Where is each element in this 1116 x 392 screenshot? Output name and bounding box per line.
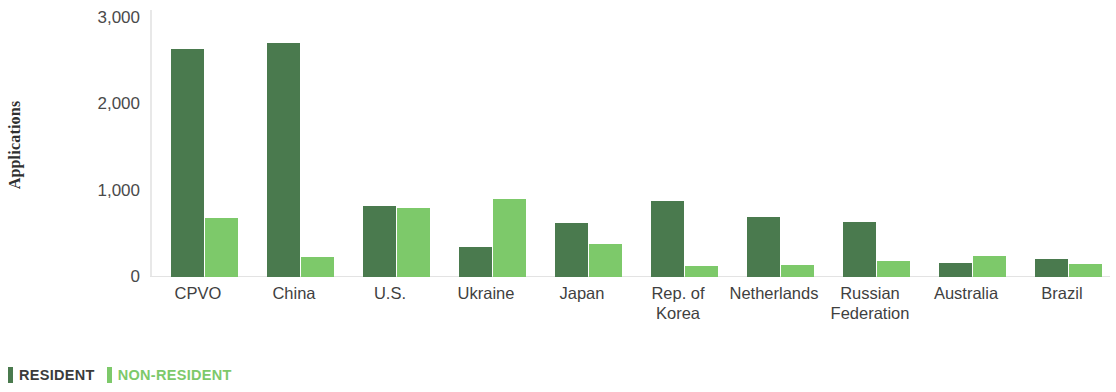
bar-resident[interactable] (843, 222, 876, 277)
x-axis-category-label-line: Brazil (1002, 283, 1116, 303)
legend-swatch-non-resident-icon (107, 367, 112, 383)
legend-label-non-resident: NON-RESIDENT (118, 367, 232, 383)
y-axis-title: Applications (0, 0, 30, 290)
bar-resident[interactable] (459, 247, 492, 277)
bar-non-resident[interactable] (397, 208, 430, 277)
y-axis-tick-label: 2,000 (54, 95, 140, 112)
bar-non-resident[interactable] (973, 256, 1006, 277)
bar-resident[interactable] (651, 201, 684, 277)
bar-group (555, 10, 622, 277)
bar-group (651, 10, 718, 277)
bar-non-resident[interactable] (685, 266, 718, 277)
bar-resident[interactable] (555, 223, 588, 277)
bar-resident[interactable] (1035, 259, 1068, 277)
y-axis-tick-label: 0 (54, 268, 140, 285)
y-axis-tick-label: 3,000 (54, 9, 140, 26)
bar-group (267, 10, 334, 277)
bar-non-resident[interactable] (877, 261, 910, 277)
bar-non-resident[interactable] (493, 199, 526, 277)
bar-resident[interactable] (747, 217, 780, 277)
legend-label-resident: RESIDENT (19, 367, 95, 383)
bar-group (171, 10, 238, 277)
bar-group (459, 10, 526, 277)
x-axis-category-label-line: Federation (810, 303, 930, 323)
bar-group (747, 10, 814, 277)
bar-resident[interactable] (171, 49, 204, 277)
bar-resident[interactable] (267, 43, 300, 277)
legend-item-resident[interactable]: RESIDENT (8, 367, 95, 383)
bar-non-resident[interactable] (301, 257, 334, 277)
bar-group (939, 10, 1006, 277)
bar-group (363, 10, 430, 277)
bar-resident[interactable] (363, 206, 396, 277)
legend-item-non-resident[interactable]: NON-RESIDENT (107, 367, 232, 383)
y-axis-line (150, 10, 152, 277)
y-axis-tick-label: 1,000 (54, 182, 140, 199)
x-axis-category-label-line: Korea (618, 303, 738, 323)
x-axis-category-label: Brazil (1002, 283, 1116, 303)
bar-non-resident[interactable] (205, 218, 238, 277)
legend-swatch-resident-icon (8, 367, 13, 383)
bar-resident[interactable] (939, 263, 972, 277)
bar-group (843, 10, 910, 277)
bar-non-resident[interactable] (589, 244, 622, 277)
x-axis-category-labels: CPVOChinaU.S.UkraineJapanRep. ofKoreaNet… (150, 283, 1110, 331)
bar-group (1035, 10, 1102, 277)
chart-legend: RESIDENT NON-RESIDENT (8, 367, 232, 383)
bar-non-resident[interactable] (781, 265, 814, 277)
bar-chart: Applications 01,0002,0003,000 CPVOChinaU… (0, 0, 1116, 392)
plot-area (150, 10, 1110, 277)
y-axis-tick-labels: 01,0002,0003,000 (45, 0, 140, 290)
bar-non-resident[interactable] (1069, 264, 1102, 277)
